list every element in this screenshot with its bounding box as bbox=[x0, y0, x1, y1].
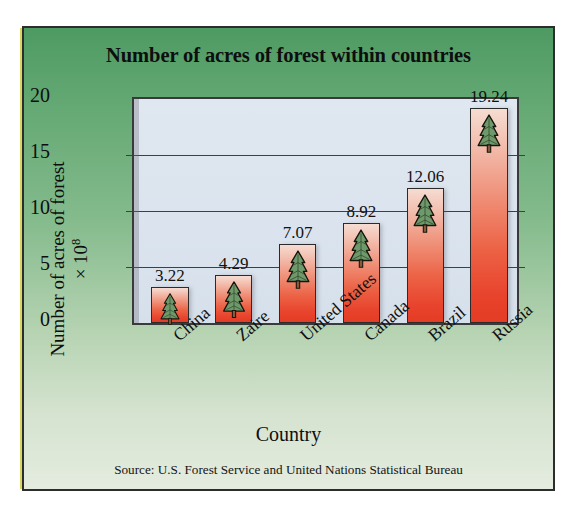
chart-figure: Number of acres of forest within countri… bbox=[22, 26, 555, 491]
plot-area: 3.224.297.078.9212.0619.24 bbox=[132, 97, 519, 325]
y-axis-tick-label: 0 bbox=[4, 308, 50, 331]
bar-value-label: 19.24 bbox=[458, 87, 519, 107]
source-note: Source: U.S. Forest Service and United N… bbox=[24, 462, 553, 478]
y-axis-tick-label: 10 bbox=[4, 196, 50, 219]
pine-tree-icon bbox=[284, 249, 312, 291]
bar bbox=[407, 188, 444, 323]
y-axis-tick-label: 20 bbox=[4, 84, 50, 107]
bar bbox=[470, 108, 507, 323]
bar-value-label: 8.92 bbox=[331, 202, 392, 222]
bar-value-label: 4.29 bbox=[203, 254, 264, 274]
bar-value-label: 3.22 bbox=[139, 266, 200, 286]
y-axis-title-line1: Number of acres of forest bbox=[47, 161, 68, 356]
gridline bbox=[126, 211, 525, 212]
y-axis-title-line2: × 10 bbox=[71, 244, 92, 278]
pine-tree-icon bbox=[411, 193, 439, 235]
y-axis-tick-label: 15 bbox=[4, 140, 50, 163]
y-axis-title: Number of acres of forest × 108 bbox=[47, 109, 93, 409]
bar-value-label: 12.06 bbox=[395, 167, 456, 187]
pine-tree-icon bbox=[348, 228, 376, 270]
x-axis-title: Country bbox=[24, 423, 553, 446]
gridline bbox=[126, 155, 525, 156]
bar bbox=[279, 244, 316, 323]
y-axis-tick-label: 5 bbox=[4, 252, 50, 275]
bar-value-label: 7.07 bbox=[267, 223, 328, 243]
pine-tree-icon bbox=[475, 113, 503, 155]
chart-title: Number of acres of forest within countri… bbox=[24, 44, 553, 67]
pine-tree-icon bbox=[221, 280, 247, 320]
y-axis-exponent: 8 bbox=[69, 238, 83, 244]
